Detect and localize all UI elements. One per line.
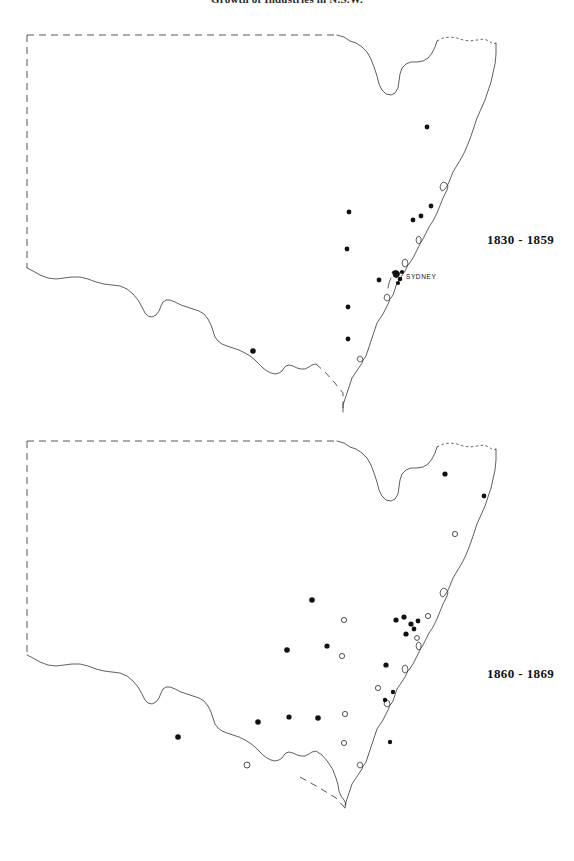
settlement-dot xyxy=(315,715,321,721)
settlement-dot xyxy=(411,218,416,223)
settlement-dot xyxy=(346,305,351,310)
settlement-dot xyxy=(400,270,404,274)
settlement-dot xyxy=(347,210,352,215)
settlement-dot xyxy=(393,617,398,622)
settlement-dot xyxy=(346,337,351,342)
settlement-circle xyxy=(341,740,346,745)
settlement-dot xyxy=(284,647,290,653)
period-label-1860-1869: 1860 - 1869 xyxy=(487,666,554,682)
settlement-dot xyxy=(388,740,392,744)
settlement-circle xyxy=(415,636,420,641)
settlement-dots-1830-1859 xyxy=(250,125,433,354)
figure-page: Growth of Industries in N.S.W. xyxy=(0,0,574,861)
map-svg-top xyxy=(0,10,574,430)
settlement-dot xyxy=(324,643,329,648)
city-label-sydney: SYDNEY xyxy=(406,273,436,280)
settlement-dot xyxy=(425,125,430,130)
settlement-dot xyxy=(419,214,424,219)
settlement-dot xyxy=(396,281,400,285)
settlement-dot xyxy=(175,734,181,740)
settlement-circle xyxy=(452,531,457,536)
settlement-dot xyxy=(377,278,382,283)
settlement-circle xyxy=(342,711,347,716)
settlement-circle xyxy=(339,653,344,658)
settlement-dot xyxy=(398,277,403,282)
settlement-dot xyxy=(401,614,406,619)
settlement-dot xyxy=(482,494,487,499)
map-panel-1830-1859 xyxy=(0,10,574,430)
settlement-dot xyxy=(309,597,315,603)
settlement-dots-1860-1869-open xyxy=(244,531,458,768)
southern-border-dashed-bottom xyxy=(300,777,345,808)
settlement-circle xyxy=(341,617,346,622)
settlement-dot xyxy=(416,619,421,624)
map-panel-1860-1869 xyxy=(0,425,574,845)
northern-border-river-bottom xyxy=(337,441,437,501)
settlement-dot xyxy=(408,621,413,626)
settlement-circle xyxy=(425,613,430,618)
settlement-dot xyxy=(412,627,417,632)
northern-border-dotted-bottom xyxy=(437,443,496,450)
map-svg-bottom xyxy=(0,425,574,845)
settlement-dot xyxy=(442,471,447,476)
east-coastline-bottom xyxy=(345,449,496,805)
northern-border-river-top xyxy=(337,35,437,95)
settlement-dot xyxy=(383,662,388,667)
figure-title: Growth of Industries in N.S.W. xyxy=(0,0,574,6)
settlement-dot xyxy=(403,631,408,636)
period-label-1830-1859: 1830 - 1859 xyxy=(487,232,554,248)
northern-border-dotted-top xyxy=(437,37,496,44)
southern-border-murray-bottom xyxy=(27,655,346,808)
settlement-dot xyxy=(255,719,261,725)
southern-border-dashed-top xyxy=(316,364,343,408)
settlement-dot xyxy=(383,698,387,702)
southern-border-murray-top xyxy=(27,268,316,374)
settlement-dot xyxy=(429,204,434,209)
settlement-dot xyxy=(286,714,291,719)
settlement-dot xyxy=(345,247,350,252)
settlement-dot xyxy=(391,690,395,694)
settlement-dot xyxy=(250,348,256,354)
settlement-dots-1860-1869-filled xyxy=(175,471,486,767)
settlement-circle xyxy=(375,685,380,690)
east-coastline-top xyxy=(343,43,496,412)
settlement-circle xyxy=(244,762,250,768)
